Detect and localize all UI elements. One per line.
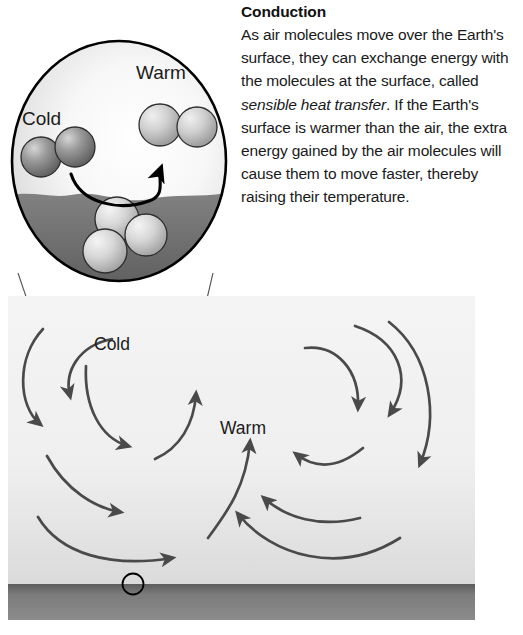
- caption-segment-1: As air molecules move over the Earth's s…: [241, 26, 508, 89]
- conduction-figure: Conduction As air molecules move over th…: [0, 0, 523, 635]
- caption-body: As air molecules move over the Earth's s…: [241, 23, 521, 209]
- inset-label-cold: Cold: [22, 108, 61, 130]
- scene-label-cold: Cold: [94, 334, 130, 355]
- caption-title: Conduction: [241, 2, 521, 22]
- scene-label-warm: Warm: [220, 418, 266, 439]
- caption-block: Conduction As air molecules move over th…: [241, 2, 521, 209]
- magnified-inset: [9, 39, 229, 285]
- caption-emphasis-term: sensible heat transfer: [241, 96, 386, 113]
- convection-scene: [0, 296, 523, 635]
- inset-label-warm: Warm: [136, 62, 186, 84]
- scene-sky: [8, 296, 475, 588]
- scene-ground: [8, 584, 475, 620]
